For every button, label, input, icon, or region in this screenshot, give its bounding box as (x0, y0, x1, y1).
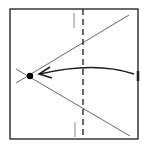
origami-diagram: Origami fold step (0, 0, 146, 147)
target-point (27, 73, 33, 79)
fold-diagram-svg (0, 0, 146, 147)
